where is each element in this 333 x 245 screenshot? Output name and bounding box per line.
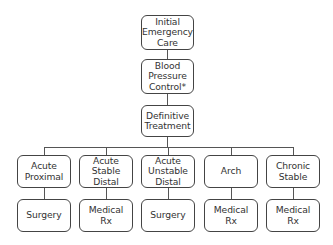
node-acute-stable-distal: Acute Stable Distal [79, 155, 133, 188]
connector-cat-2-treatment [168, 188, 169, 199]
node-treatment-surgery: Surgery [17, 199, 71, 232]
connector-bus-cat-3 [231, 147, 232, 155]
connector-cat-4-treatment [293, 188, 294, 199]
node-treatment-surgery: Surgery [141, 199, 195, 232]
connector-cat-0-treatment [44, 188, 45, 199]
node-initial-emergency-care: Initial Emergency Care [141, 15, 194, 50]
node-blood-pressure-control: Blood Pressure Control* [141, 59, 194, 94]
connector-initial-bp [167, 50, 168, 59]
connector-bus-cat-2 [168, 147, 169, 155]
connector-cat-3-treatment [231, 188, 232, 199]
node-arch: Arch [204, 155, 258, 188]
node-acute-proximal: Acute Proximal [17, 155, 71, 188]
connector-bus-cat-0 [44, 147, 45, 155]
node-acute-unstable-distal: Acute Unstable Distal [141, 155, 195, 188]
node-chronic-stable: Chronic Stable [266, 155, 320, 188]
node-treatment-medical-rx: Medical Rx [79, 199, 133, 232]
node-definitive-treatment: Definitive Treatment [141, 105, 194, 137]
connector-bp-definitive [167, 94, 168, 105]
connector-definitive-bus [167, 137, 168, 147]
connector-bus-cat-1 [106, 147, 107, 155]
node-treatment-medical-rx: Medical Rx [266, 199, 320, 232]
connector-cat-1-treatment [106, 188, 107, 199]
connector-bus-cat-4 [293, 147, 294, 155]
node-treatment-medical-rx: Medical Rx [204, 199, 258, 232]
